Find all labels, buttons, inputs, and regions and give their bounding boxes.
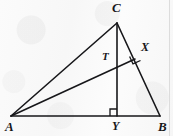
point-label-X: X (141, 41, 149, 53)
geometry-canvas (0, 0, 173, 136)
segment-CB (117, 23, 160, 116)
point-label-T: T (102, 51, 109, 62)
geometry-figure: A B C T X Y (0, 0, 173, 136)
point-label-B: B (158, 120, 167, 133)
point-label-C: C (112, 1, 121, 14)
point-label-Y: Y (112, 120, 119, 132)
point-label-A: A (5, 120, 14, 133)
right-angle-at-Y-icon (110, 109, 117, 116)
segment-AC (11, 23, 117, 116)
